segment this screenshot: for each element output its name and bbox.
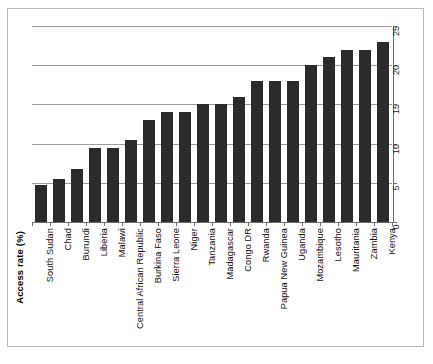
x-axis-tick: [104, 222, 105, 226]
y-axis-tick-label: 25: [391, 26, 401, 36]
bar[interactable]: [179, 112, 191, 222]
gridline: [32, 26, 392, 27]
bar[interactable]: [269, 81, 281, 222]
x-axis-tick: [32, 222, 33, 226]
x-axis-category-label: Burundi: [81, 228, 91, 260]
x-axis-tick: [374, 222, 375, 226]
y-axis-tick-label: 5: [391, 185, 401, 190]
y-axis-tick-label: 20: [391, 65, 401, 75]
x-axis-tick: [158, 222, 159, 226]
bar[interactable]: [323, 57, 335, 222]
bar-chart: Access rate (%) 0510152025South SudanCha…: [8, 9, 425, 348]
bar[interactable]: [107, 148, 119, 222]
x-axis-category-label: Uganda: [297, 228, 307, 261]
x-axis-tick: [302, 222, 303, 226]
x-axis-category-label: Madagascar: [225, 228, 235, 280]
x-axis-category-label: Central African Republic: [135, 228, 145, 329]
bar[interactable]: [341, 50, 353, 222]
bar[interactable]: [377, 42, 389, 222]
x-axis-tick: [356, 222, 357, 226]
x-axis-tick: [68, 222, 69, 226]
bar[interactable]: [53, 179, 65, 222]
y-axis-tick: [393, 183, 397, 184]
x-axis-category-label: Sierra Leone: [171, 228, 181, 282]
x-axis-category-label: Papua New Guinea: [279, 228, 289, 309]
x-axis-tick: [194, 222, 195, 226]
y-axis-tick-label: 10: [391, 144, 401, 154]
y-axis-title: Access rate (%): [14, 231, 25, 304]
bar[interactable]: [287, 81, 299, 222]
x-axis-tick: [320, 222, 321, 226]
x-axis-category-label: Congo DR: [243, 228, 253, 272]
x-axis-tick: [284, 222, 285, 226]
plot-area: [32, 26, 392, 222]
bar[interactable]: [161, 112, 173, 222]
x-axis-category-label: Zambia: [369, 228, 379, 259]
gridline: [32, 104, 392, 105]
x-axis-category-label: Mozambique: [315, 228, 325, 282]
x-axis-tick: [392, 222, 393, 226]
x-axis-tick: [212, 222, 213, 226]
y-axis-tick-label: 15: [391, 104, 401, 114]
x-axis-tick: [86, 222, 87, 226]
bar[interactable]: [71, 169, 83, 222]
bar[interactable]: [251, 81, 263, 222]
x-axis-tick: [248, 222, 249, 226]
x-axis-category-label: Liberia: [99, 228, 109, 256]
gridline: [32, 65, 392, 66]
gridline: [32, 183, 392, 184]
bar[interactable]: [215, 104, 227, 222]
x-axis-tick: [140, 222, 141, 226]
bar[interactable]: [35, 185, 47, 222]
x-axis-tick: [230, 222, 231, 226]
bar[interactable]: [89, 148, 101, 222]
x-axis-category-label: South Sudan: [45, 228, 55, 282]
x-axis-category-label: Chad: [63, 228, 73, 250]
y-axis-line: [393, 26, 394, 223]
y-axis-tick: [393, 222, 397, 223]
x-axis-tick: [122, 222, 123, 226]
figure-frame: Access rate (%) 0510152025South SudanCha…: [7, 8, 424, 347]
x-axis-category-label: Mauritania: [351, 228, 361, 272]
x-axis-tick: [266, 222, 267, 226]
bar[interactable]: [359, 50, 371, 222]
x-axis-tick: [176, 222, 177, 226]
x-axis-category-label: Rwanda: [261, 228, 271, 262]
bar[interactable]: [197, 104, 209, 222]
x-axis-category-label: Malawi: [117, 228, 127, 257]
x-axis-category-label: Burkina Faso: [153, 228, 163, 283]
bar[interactable]: [125, 140, 137, 222]
bar[interactable]: [305, 65, 317, 222]
x-axis-tick: [338, 222, 339, 226]
x-axis-category-label: Niger: [189, 228, 199, 250]
x-axis-category-label: Kenya: [387, 228, 397, 255]
x-axis-category-label: Tanzania: [207, 228, 217, 266]
bar[interactable]: [233, 97, 245, 222]
bar[interactable]: [143, 120, 155, 222]
gridline: [32, 144, 392, 145]
x-axis-tick: [50, 222, 51, 226]
x-axis-category-label: Lesotho: [333, 228, 343, 261]
